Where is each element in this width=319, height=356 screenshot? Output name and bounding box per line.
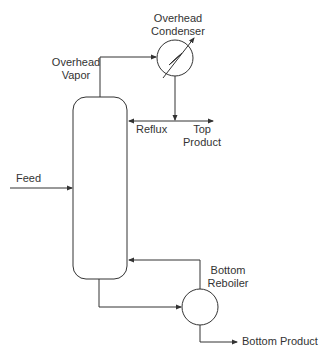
distillation-column (73, 97, 127, 279)
top-product-label: Top Product (182, 123, 222, 149)
condenser-label: Overhead Condenser (145, 12, 211, 38)
overhead-vapor-label-line1: Overhead (50, 56, 102, 69)
overhead-vapor-line (100, 57, 156, 97)
bottoms-line (99, 279, 181, 307)
reboiler-label-line2: Reboiler (205, 277, 251, 290)
condenser-icon (157, 40, 193, 76)
condenser-zigzag (169, 53, 182, 65)
top-product-label-line2: Product (182, 136, 222, 149)
reflux-label: Reflux (136, 123, 167, 136)
reboiler-label-line1: Bottom (205, 264, 251, 277)
reboiler-label: Bottom Reboiler (205, 264, 251, 290)
bottom-product-label: Bottom Product (242, 335, 318, 348)
condenser-label-line2: Condenser (145, 25, 211, 38)
reboiler-return-line (129, 260, 200, 289)
overhead-vapor-label: Overhead Vapor (50, 56, 102, 82)
top-product-label-line1: Top (182, 123, 222, 136)
flow-diagram (0, 0, 319, 356)
reboiler-icon (182, 289, 218, 325)
bottom-product-line (200, 325, 237, 342)
condenser-coolant-arrow (163, 38, 194, 78)
feed-label: Feed (16, 172, 41, 185)
overhead-vapor-label-line2: Vapor (50, 69, 102, 82)
condenser-label-line1: Overhead (145, 12, 211, 25)
